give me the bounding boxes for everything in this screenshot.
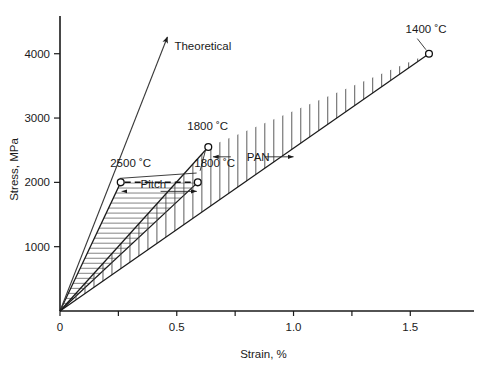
data-point-marker [194,179,201,186]
theoretical-label: Theoretical [174,40,231,52]
data-point-marker [205,144,212,151]
region-pitch [60,182,202,311]
theoretical-line [60,37,167,311]
label-2500c: 2500 ˚C [110,157,151,169]
y-tick-label: 2000 [24,176,50,188]
x-tick-labels: 00.51.01.5 [57,321,418,333]
temperature-callout-leaders [120,39,426,179]
label-1800c-pan: 1800 ˚C [187,120,228,132]
y-tick-label: 4000 [24,48,50,60]
region-label-pitch: Pitch [141,178,167,190]
pan-upper-bound-line [60,147,208,311]
x-axis-title: Strain, % [240,348,287,360]
callout-leader [417,39,426,50]
chart-annotations: Theoretical2500 ˚C1800 ˚C1800 ˚C1400 ˚CP… [110,23,446,191]
y-tick-labels: 1000200030004000 [24,48,50,253]
stress-strain-chart: 00.51.01.5 1000200030004000 Theoretical2… [0,0,480,366]
x-tick-label: 0 [57,321,63,333]
pitch-lower-bound-line [60,182,198,311]
x-tick-label: 1.0 [286,321,302,333]
pitch-upper-bound-line [60,182,121,311]
label-1800c-pitch: 1800 ˚C [194,157,235,169]
data-point-markers [117,50,432,185]
region-label-pan: PAN [247,151,270,163]
data-point-marker [426,50,433,57]
x-tick-label: 1.5 [402,321,418,333]
y-tick-label: 1000 [24,241,50,253]
x-tick-label: 0.5 [169,321,185,333]
y-axis-ticks [54,54,60,247]
label-1400c: 1400 ˚C [406,23,447,35]
y-tick-label: 3000 [24,112,50,124]
chart-canvas: 00.51.01.5 1000200030004000 Theoretical2… [0,0,480,366]
y-axis-title: Stress, MPa [8,138,20,201]
pan-lower-bound-line [60,54,429,311]
data-point-marker [117,179,124,186]
